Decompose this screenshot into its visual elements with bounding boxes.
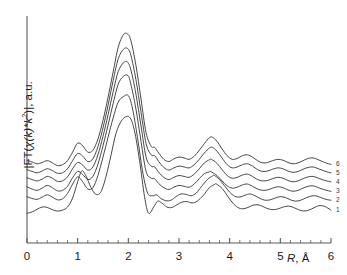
x-axis-tick-label: 0 <box>17 250 37 262</box>
y-axis-label-suffix: )|, a.u. <box>22 81 34 113</box>
curve-label: 3 <box>336 187 346 194</box>
y-axis-label-exponent: 2 <box>20 114 29 118</box>
curve-label: 1 <box>336 206 346 213</box>
data-curve <box>27 33 331 166</box>
data-curve <box>27 48 331 174</box>
curve-label: 5 <box>336 169 346 176</box>
y-axis-label-k: (k)*k <box>22 118 34 142</box>
curve-label: 4 <box>336 178 346 185</box>
x-axis-tick-label: 4 <box>220 250 240 262</box>
x-axis-tick-label: 6 <box>321 250 341 262</box>
y-axis-label-prefix: |FT( <box>22 148 34 169</box>
x-axis-major-ticks <box>27 238 331 243</box>
x-axis-tick-label: 1 <box>68 250 88 262</box>
data-curve <box>27 75 331 191</box>
axis-group <box>27 16 331 243</box>
data-curve <box>27 116 331 213</box>
x-axis-label: R, Å <box>287 252 309 264</box>
data-curves <box>27 33 331 214</box>
x-axis-tick-label: 2 <box>118 250 138 262</box>
y-axis-label: |FT(χ(k)*k2)|, a.u. <box>20 40 34 210</box>
x-axis-label-unit: , Å <box>295 252 309 264</box>
plot-canvas <box>0 0 347 275</box>
curve-label: 2 <box>336 196 346 203</box>
curve-label: 6 <box>336 160 346 167</box>
exafs-fourier-transform-chart: |FT(χ(k)*k2)|, a.u. 0123456 654321 R, Å <box>0 0 347 275</box>
data-curve <box>27 61 331 181</box>
x-axis-tick-label: 3 <box>169 250 189 262</box>
y-axis-label-chi: χ <box>22 141 34 147</box>
